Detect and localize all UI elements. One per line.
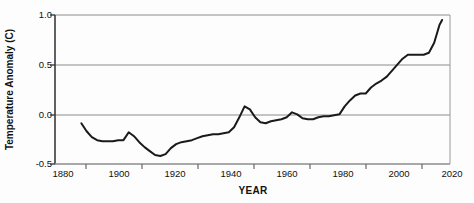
temperature-anomaly-chart: Temperature Anomaly (C) YEAR 1.0 0.5 0.0… <box>0 0 474 203</box>
gridlines <box>55 15 450 115</box>
plot-area <box>0 0 474 203</box>
temperature-anomaly-line <box>81 20 442 156</box>
